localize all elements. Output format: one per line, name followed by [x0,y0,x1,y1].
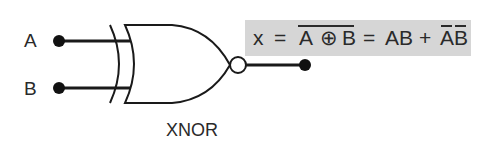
formula-equals-1: = [274,26,286,50]
formula-equals-2: = [363,26,375,50]
formula-term-abar: A [440,26,454,50]
formula-xor-a: A [299,26,313,50]
input-b-terminal [53,82,65,94]
formula-xor-b: B [342,26,356,50]
xor-input-arc [110,25,119,103]
input-b-label: B [24,78,37,100]
formula-xor-op: ⊕ [320,26,338,50]
gate-body [125,25,230,103]
formula-term-ab: AB [385,26,413,50]
formula-box: x = A ⊕ B = AB + A B [245,20,471,56]
input-a-terminal [53,35,65,47]
formula-plus: + [419,26,431,50]
inversion-bubble [230,57,246,73]
formula-term-bbar: B [454,26,468,50]
output-terminal [299,59,311,71]
formula-lhs: x [253,26,264,50]
input-a-label: A [24,30,37,52]
gate-caption: XNOR [166,120,218,141]
